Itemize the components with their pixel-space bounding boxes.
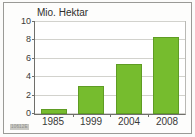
bar-1985[interactable]: [41, 109, 67, 114]
plot-area: 10 8 6 4 2 0: [34, 21, 186, 115]
bar-slot-1985: [35, 22, 73, 114]
chart-figure: Mio. Hektar 10 8 6 4 2: [0, 0, 195, 137]
bar-slot-2004: [110, 22, 148, 114]
source-code-watermark: 10612E: [10, 124, 29, 130]
bar-series: [35, 22, 185, 114]
x-tick-mark-3: [148, 114, 149, 117]
x-tick-mark-1: [73, 114, 74, 117]
y-tick-label-10: 10: [21, 17, 31, 26]
x-axis-label-1999: 1999: [80, 117, 102, 127]
bar-2008[interactable]: [153, 37, 179, 114]
x-axis-label-1985: 1985: [42, 117, 64, 127]
x-axis-label-2004: 2004: [118, 117, 140, 127]
y-tick-label-4: 4: [26, 72, 31, 81]
y-tick-label-0: 0: [26, 109, 31, 118]
bar-slot-2008: [148, 22, 186, 114]
y-tick-label-8: 8: [26, 35, 31, 44]
chart-frame: Mio. Hektar 10 8 6 4 2: [3, 2, 192, 134]
bar-slot-1999: [73, 22, 111, 114]
x-tick-mark-2: [110, 114, 111, 117]
y-tick-label-2: 2: [26, 90, 31, 99]
bar-2004[interactable]: [116, 64, 142, 114]
chart-title: Mio. Hektar: [37, 8, 88, 18]
y-tick-label-6: 6: [26, 53, 31, 62]
bar-1999[interactable]: [78, 86, 104, 114]
x-axis-label-2008: 2008: [156, 117, 178, 127]
